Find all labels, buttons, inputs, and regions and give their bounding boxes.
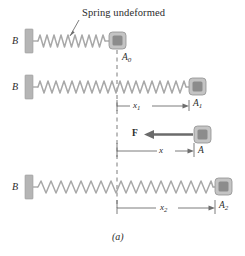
diagram-canvas [0, 0, 245, 256]
block-label-row3: A2 [219, 201, 228, 212]
block-label-force: A [198, 146, 204, 156]
wall-block-row3 [25, 175, 33, 199]
dimension-arrowhead-x2 [209, 205, 216, 210]
dimension-arrowhead-x1 [183, 103, 190, 108]
wall-block-row2 [25, 75, 33, 99]
wall-block-row1 [25, 29, 33, 53]
block-label-row2: A1 [193, 99, 202, 110]
block-label-row1-sub: 0 [128, 56, 132, 64]
block-inner-row3 [219, 182, 229, 192]
row-stretched-x2 [25, 175, 232, 214]
spring-coil-row2 [38, 81, 186, 93]
dimension-label-x1-sub: 1 [137, 104, 140, 111]
row-stretched-x1 [25, 75, 206, 111]
dimension-label-x1: x1 [133, 101, 140, 112]
row-undeformed [25, 29, 126, 53]
callout-arrowhead [70, 31, 75, 36]
block-label-row3-sub: 2 [225, 204, 229, 212]
force-arrowhead [144, 130, 154, 139]
block-label-row2-sub: 1 [199, 102, 203, 110]
spring-force-diagram: Spring undeformed B A0 B x1 A1 F x A B x… [0, 0, 245, 256]
wall-label-row2: B [12, 82, 18, 92]
dimension-label-x2: x2 [160, 203, 167, 214]
wall-label-row1: B [12, 36, 18, 46]
dimension-label-x2-sub: 2 [164, 206, 167, 213]
dimension-arrowhead-x [188, 148, 195, 153]
callout-label-spring-undeformed: Spring undeformed [82, 8, 165, 19]
figure-caption: (a) [112, 232, 124, 242]
block-inner-row2 [193, 82, 203, 92]
block-inner-force [198, 130, 208, 140]
dimension-label-x: x [159, 146, 163, 155]
block-label-row1: A0 [122, 53, 131, 64]
spring-coil-row1 [38, 35, 105, 47]
block-inner-row1 [113, 36, 123, 46]
spring-coil-row3 [38, 181, 213, 193]
wall-label-row3: B [12, 182, 18, 192]
force-label-F: F [132, 129, 138, 139]
